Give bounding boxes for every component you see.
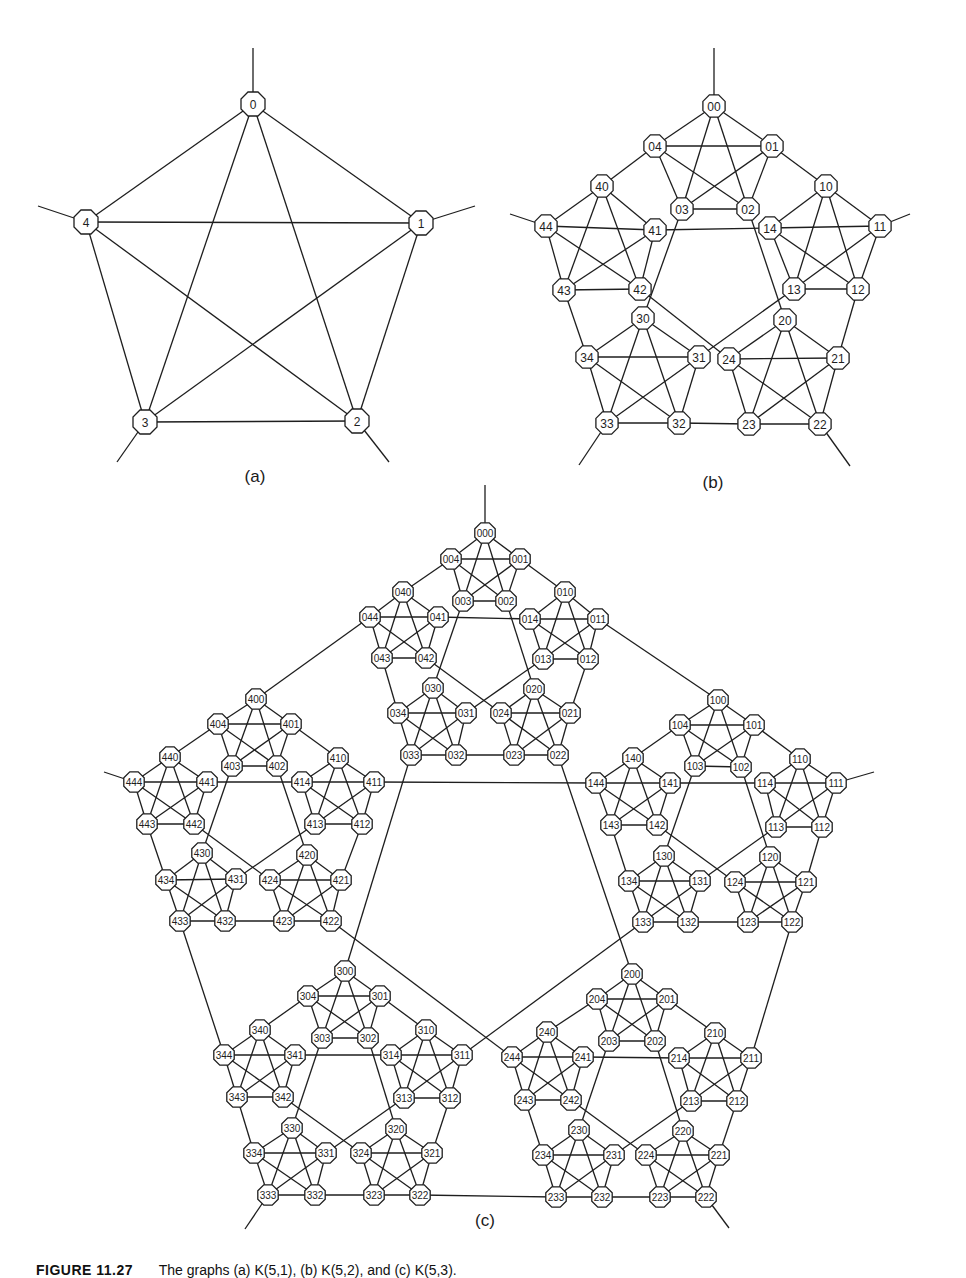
node-label: 002: [498, 596, 515, 607]
graph-node-12: 12: [847, 278, 869, 300]
node-label: 404: [210, 719, 227, 730]
graph-node-4: 4: [74, 210, 98, 234]
node-label: 341: [287, 1050, 304, 1061]
node-label: 011: [590, 614, 606, 625]
node-label: 410: [330, 753, 347, 764]
node-label: 342: [275, 1092, 292, 1103]
graph-node-313: 313: [394, 1088, 414, 1108]
node-label: 234: [535, 1150, 552, 1161]
node-label: 124: [727, 877, 744, 888]
node-label: 001: [512, 554, 529, 565]
graph-node-34: 34: [576, 346, 598, 368]
graph-node-44: 44: [535, 215, 557, 237]
node-label: 334: [246, 1148, 263, 1159]
graph-node-134: 134: [619, 871, 639, 891]
node-label: 01: [765, 140, 779, 154]
node-label: 430: [194, 848, 211, 859]
node-label: 023: [506, 750, 523, 761]
graph-node-141: 141: [660, 773, 680, 793]
graph-node-044: 044: [360, 607, 380, 627]
node-label: 11: [874, 220, 887, 234]
node-label: 10: [819, 180, 833, 194]
edge-00-03: [682, 106, 714, 209]
graph-panel-k5-1: 01234 (a): [38, 48, 475, 486]
graph-node-000: 000: [475, 523, 495, 543]
graph-node-323: 323: [364, 1185, 384, 1205]
graph-node-224: 224: [636, 1145, 656, 1165]
graph-node-043: 043: [372, 648, 392, 668]
node-label: 402: [269, 761, 286, 772]
graph-node-002: 002: [496, 591, 516, 611]
node-label: 40: [595, 180, 609, 194]
node-label: 120: [762, 852, 779, 863]
node-label: 244: [504, 1052, 521, 1063]
node-label: 000: [477, 528, 494, 539]
edge-0-4: [86, 104, 253, 222]
node-label: 221: [711, 1150, 728, 1161]
edge-0-1: [253, 104, 421, 223]
graph-node-431: 431: [226, 869, 246, 889]
node-label: 213: [683, 1096, 700, 1107]
graph-node-31: 31: [688, 346, 710, 368]
node-label: 203: [601, 1036, 618, 1047]
node-label: 211: [743, 1053, 759, 1064]
graph-node-201: 201: [657, 989, 677, 1009]
node-label: 423: [276, 916, 293, 927]
graph-node-240: 240: [537, 1022, 557, 1042]
graph-node-314: 314: [381, 1045, 401, 1065]
panel-label-b: (b): [703, 473, 724, 492]
node-label: 214: [671, 1053, 688, 1064]
node-label: 231: [606, 1150, 623, 1161]
graph-node-241: 241: [573, 1047, 593, 1067]
node-label: 420: [299, 850, 316, 861]
graph-node-200: 200: [622, 964, 642, 984]
graph-node-234: 234: [533, 1145, 553, 1165]
node-label: 113: [768, 822, 784, 833]
node-label: 311: [454, 1050, 470, 1061]
node-label: 23: [742, 418, 756, 432]
graph-node-33: 33: [596, 412, 618, 434]
graph-node-421: 421: [331, 870, 351, 890]
graph-node-210: 210: [705, 1023, 725, 1043]
node-label: 104: [672, 720, 689, 731]
graph-node-122: 122: [782, 912, 802, 932]
panel-label-a: (a): [245, 467, 266, 486]
graph-node-130: 130: [654, 846, 674, 866]
node-label: 412: [354, 819, 371, 830]
graph-node-01: 01: [761, 135, 783, 157]
node-label: 33: [600, 417, 614, 431]
node-label: 243: [517, 1095, 534, 1106]
graph-node-422: 422: [321, 911, 341, 931]
node-label: 134: [621, 876, 638, 887]
graph-node-304: 304: [298, 986, 318, 1006]
graph-node-114: 114: [755, 773, 775, 793]
node-label: 204: [589, 994, 606, 1005]
node-label: 14: [763, 222, 777, 236]
graph-node-003: 003: [453, 591, 473, 611]
node-label: 212: [729, 1096, 746, 1107]
graph-node-231: 231: [604, 1145, 624, 1165]
node-label: 041: [430, 612, 447, 623]
graph-node-140: 140: [623, 748, 643, 768]
graph-panel-k5-2: 0001020304101112131420212223243031323334…: [510, 48, 910, 492]
node-label: 102: [733, 762, 750, 773]
graph-node-144: 144: [586, 773, 606, 793]
graph-node-344: 344: [214, 1045, 234, 1065]
node-label: 122: [784, 917, 801, 928]
graph-node-21: 21: [827, 347, 849, 369]
node-label: 0: [250, 98, 257, 112]
graph-node-022: 022: [548, 745, 568, 765]
link-edge-14-41: [655, 228, 770, 230]
node-label: 003: [455, 596, 472, 607]
graph-node-221: 221: [709, 1145, 729, 1165]
edge-1-3: [145, 223, 421, 422]
graph-node-32: 32: [668, 412, 690, 434]
graph-node-120: 120: [760, 847, 780, 867]
node-label: 112: [814, 822, 830, 833]
node-label: 013: [535, 654, 552, 665]
edge-00-02: [714, 106, 748, 209]
graph-node-00: 00: [703, 95, 725, 117]
graph-node-20: 20: [774, 309, 796, 331]
edge-11-14: [770, 226, 880, 228]
node-label: 443: [139, 819, 156, 830]
